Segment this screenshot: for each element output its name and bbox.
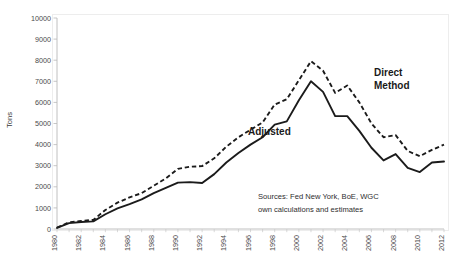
y-tick-label: 7000 <box>35 77 51 86</box>
x-tick-label: 1984 <box>98 235 107 251</box>
chart-background <box>0 0 457 268</box>
x-tick-label: 1992 <box>195 235 204 251</box>
adjusted-label: Adjusted <box>248 126 291 137</box>
x-tick-label: 1996 <box>244 235 253 251</box>
x-tick-label: 1990 <box>171 235 180 251</box>
y-tick-label: 10000 <box>31 14 51 23</box>
y-tick-label: 1000 <box>35 204 51 213</box>
y-tick-label: 6000 <box>35 98 51 107</box>
x-tick-label: 1980 <box>50 235 59 251</box>
line-chart: 0100020003000400050006000700080009000100… <box>0 0 457 268</box>
x-tick-label: 2008 <box>389 235 398 251</box>
x-tick-label: 2004 <box>340 235 349 251</box>
y-tick-label: 3000 <box>35 161 51 170</box>
direct-method-label-line1: Direct <box>374 67 403 78</box>
chart-svg: 0100020003000400050006000700080009000100… <box>0 0 457 268</box>
x-tick-label: 1986 <box>123 235 132 251</box>
y-tick-label: 2000 <box>35 182 51 191</box>
x-tick-label: 1982 <box>74 235 83 251</box>
y-tick-label: 8000 <box>35 56 51 65</box>
x-tick-label: 2010 <box>413 235 422 251</box>
x-tick-label: 2012 <box>437 235 446 251</box>
y-tick-label: 9000 <box>35 35 51 44</box>
x-tick-label: 2000 <box>292 235 301 251</box>
direct-method-label-line2: Method <box>374 80 410 91</box>
x-tick-label: 1998 <box>268 235 277 251</box>
x-tick-label: 1994 <box>219 235 228 251</box>
sources-note-line2: own calculations and estimates <box>258 205 363 214</box>
x-tick-label: 2006 <box>364 235 373 251</box>
x-tick-label: 2002 <box>316 235 325 251</box>
y-tick-label: 5000 <box>35 119 51 128</box>
y-tick-label: 4000 <box>35 140 51 149</box>
sources-note-line1: Sources: Fed New York, BoE, WGC <box>258 192 379 201</box>
y-axis-title: Tons <box>5 112 14 128</box>
y-tick-label: 0 <box>47 225 51 234</box>
x-tick-label: 1988 <box>147 235 156 251</box>
